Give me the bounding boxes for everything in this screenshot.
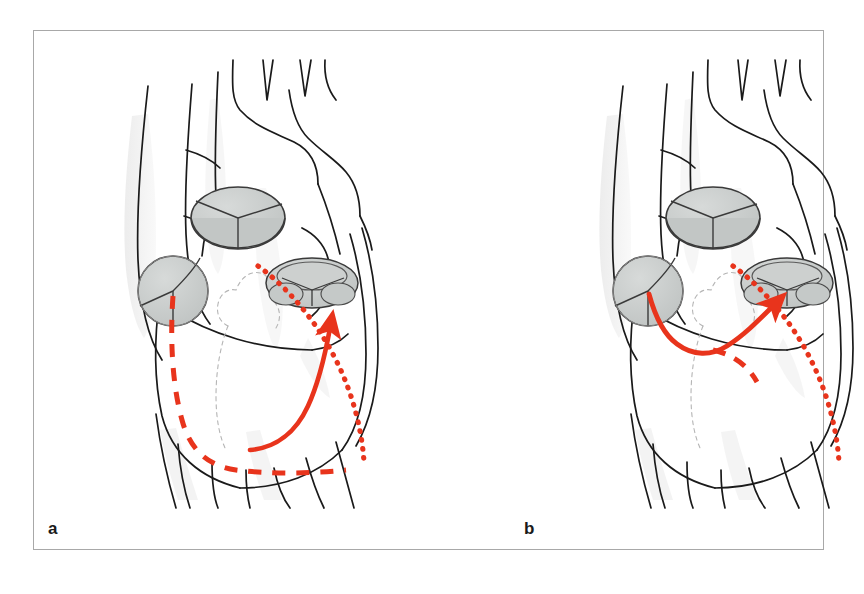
panel-label-a: a xyxy=(48,519,57,539)
mitral-valve xyxy=(138,256,208,326)
dashed-branch-pathway xyxy=(713,350,757,382)
figure-root: a xyxy=(0,0,864,594)
panel-label-b: b xyxy=(524,519,534,539)
heart-diagram-panel-a xyxy=(60,38,420,508)
pulmonary-valve xyxy=(191,187,285,249)
solid-arrow-pathway[interactable] xyxy=(250,328,330,450)
heart-diagram-panel-b xyxy=(535,38,864,508)
pulmonary-valve xyxy=(666,187,760,249)
mitral-valve xyxy=(613,256,683,326)
caption-fragment xyxy=(846,22,864,92)
